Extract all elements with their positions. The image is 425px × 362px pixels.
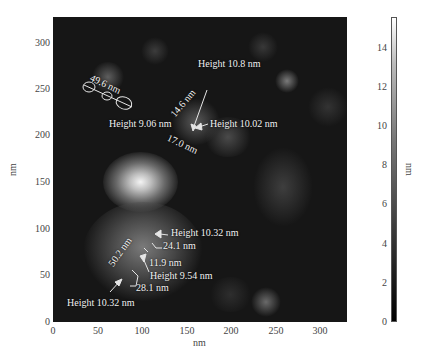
x-tick: 200 [219,325,243,336]
annotation-height: Height 10.8 nm [198,58,261,69]
y-tick: 200 [26,129,50,140]
y-tick: 150 [26,176,50,187]
colorbar [391,17,397,322]
annotation-height: Height 10.02 nm [210,118,278,129]
annotation-height: Height 9.06 nm [109,118,172,129]
annotation-height: Height 10.32 nm [171,227,239,238]
x-tick: 150 [175,325,199,336]
colorbar-tick: 2 [375,277,387,288]
arrowhead [195,123,202,130]
annotation-height: Height 10.32 nm [67,297,135,308]
x-tick: 300 [308,325,332,336]
colorbar-tick: 14 [371,42,387,53]
y-tick: 300 [26,37,50,48]
bracket [144,248,148,252]
y-tick: 250 [26,83,50,94]
colorbar-label: nm [404,163,415,176]
colorbar-tick: 12 [371,81,387,92]
x-tick: 0 [43,325,63,336]
annotation-length: 28.1 nm [136,282,169,293]
x-axis-label: nm [193,337,206,348]
annotation-length: 11.9 nm [149,257,181,268]
colorbar-tick: 4 [375,238,387,249]
x-tick: 250 [264,325,288,336]
x-tick: 100 [130,325,154,336]
colorbar-tick: 6 [375,198,387,209]
annotation-height: Height 9.54 nm [150,270,213,281]
arrowhead [155,230,161,238]
colorbar-tick: 8 [375,159,387,170]
colorbar-tick: 0 [375,316,387,327]
annotation-overlay [0,0,425,362]
y-tick: 50 [30,269,50,280]
y-axis-label: nm [7,163,18,176]
x-tick: 50 [86,325,110,336]
colorbar-tick: 10 [371,120,387,131]
annotation-length: 24.1 nm [163,240,196,251]
bracket [152,243,162,248]
y-tick: 100 [26,223,50,234]
